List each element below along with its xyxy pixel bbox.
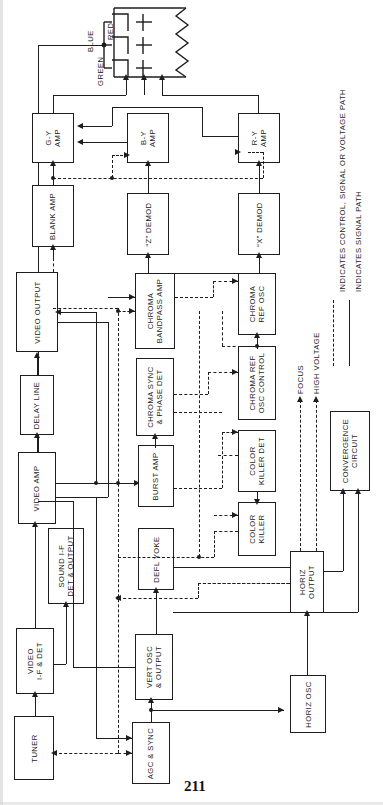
block-horiz-osc-label: HORIZ OSC — [304, 681, 313, 727]
wire-videoamp-into-burst — [128, 483, 138, 484]
dashed-killer-in-b — [214, 531, 238, 532]
wire-videoamp-feed-a-top — [58, 312, 96, 313]
block-by-amp[interactable]: B-Y AMP — [127, 113, 169, 163]
block-convergence-circuit[interactable]: CONVERGENCE CIRCUIT — [330, 411, 370, 491]
block-color-killer-det-line1: COLOR — [248, 446, 257, 475]
block-chroma-sync-line1: CHROMA SYNC — [146, 366, 155, 428]
block-chroma-ref-ctl-line1: CHROMA REF — [248, 355, 257, 410]
wire-by-to-gy-a-v — [112, 107, 113, 126]
block-video-if-det[interactable]: VIDEO I-F & DET — [16, 628, 54, 694]
arrow-zdemod-to-by — [145, 160, 151, 166]
wire-vert-out-right — [173, 612, 304, 613]
block-gy-amp-line2: AMP — [53, 129, 62, 147]
arrow-videoamp-to-delay — [34, 432, 40, 438]
dashed-agc-to-tuner — [54, 753, 118, 754]
arrow-into-blank-amp — [50, 244, 56, 250]
legend-dashed-label: INDICATES CONTROL, SIGNAL OR VOLTAGE PAT… — [338, 89, 347, 292]
dashed-agc-top — [53, 308, 118, 309]
block-video-output-label: VIDEO OUTPUT — [33, 281, 42, 343]
dashed-sync-out-a-v — [208, 372, 209, 394]
block-chroma-bandpass[interactable]: CHROMA BANDPASS AMP — [135, 273, 175, 349]
block-delay-line-label: DELAY LINE — [33, 381, 42, 429]
arrow-xdemod-to-ry — [256, 160, 262, 166]
block-color-killer[interactable]: COLOR KILLER — [238, 502, 276, 556]
wire-by-to-gy-a-top — [112, 107, 202, 108]
arrow-vert-to-conv — [355, 488, 361, 494]
block-tuner[interactable]: TUNER — [14, 716, 54, 780]
block-vert-osc[interactable]: VERT OSC & OUTPUT — [135, 634, 173, 700]
block-video-output[interactable]: VIDEO OUTPUT — [16, 272, 58, 352]
arrow-video-return — [55, 309, 61, 315]
block-horiz-output[interactable]: HORIZ OUTPUT — [290, 551, 324, 613]
block-blank-amp-label: BLANK AMP — [49, 192, 58, 239]
block-gy-amp[interactable]: G-Y AMP — [32, 113, 74, 163]
wire-videoif-to-sound-v — [66, 604, 67, 664]
dashed-killerdet-in2 — [218, 455, 238, 456]
arrow-killer-in-a — [232, 512, 238, 518]
block-chroma-ref-osc-control[interactable]: CHROMA REF OSC CONTROL — [238, 346, 276, 420]
block-burst-amp[interactable]: BURST AMP — [138, 445, 174, 507]
block-vert-osc-line1: VERT OSC — [145, 646, 154, 688]
block-video-if-line2: I-F & DET — [35, 642, 44, 680]
arrow-into-chroma-bp — [129, 294, 135, 300]
arrow-crt-blue — [123, 74, 129, 80]
junction-agc-bus — [116, 481, 120, 485]
block-ry-amp[interactable]: R-Y AMP — [238, 113, 280, 163]
arrow-videoif-to-videoamp — [32, 521, 38, 527]
wire-blue-into-vert — [73, 667, 135, 668]
block-x-demod-label: “X” DEMOD — [255, 202, 264, 247]
wire-videoamp-feed-b-v — [108, 322, 109, 497]
wire-blank-to-gy — [53, 163, 54, 185]
arrow-vert-to-yoke — [153, 587, 159, 593]
block-delay-line[interactable]: DELAY LINE — [20, 375, 54, 435]
block-chroma-sync-line2: & PHASE DET — [155, 369, 164, 424]
dashed-burst-out — [174, 488, 222, 489]
block-burst-amp-label: BURST AMP — [152, 452, 161, 500]
wire-agc-out-right — [151, 710, 284, 711]
dashed-high-voltage — [316, 400, 317, 551]
arrow-refctl-to-refosc — [254, 332, 260, 338]
block-chroma-bp-line1: CHROMA — [146, 293, 155, 329]
arrow-delay-to-videoout — [34, 352, 40, 358]
block-defl-yoke[interactable]: DEFL YOKE — [138, 528, 174, 590]
wire-tuner-to-videoif — [35, 694, 36, 716]
dashed-into-horizout — [198, 583, 290, 584]
block-ry-amp-line2: AMP — [259, 129, 268, 147]
wire-horizosc-to-horizout — [307, 613, 308, 675]
dashed-killer-up — [199, 311, 200, 557]
label-focus: FOCUS — [296, 365, 305, 394]
arrow-tuner-to-videoif — [32, 691, 38, 697]
block-video-amp[interactable]: VIDEO AMP — [18, 452, 56, 524]
arrow-chroma-to-z — [145, 252, 151, 258]
block-horiz-osc[interactable]: HORIZ OSC — [290, 675, 326, 733]
block-horiz-output-line2: OUTPUT — [307, 565, 316, 599]
wire-vert-to-conv-h — [304, 612, 358, 613]
block-by-amp-line1: B-Y — [139, 131, 148, 145]
dashed-sync-out-a — [174, 394, 208, 395]
wire-videoamp-feed-b — [56, 497, 108, 498]
arrow-agc-to-tuner — [51, 750, 57, 756]
block-sound-if[interactable]: SOUND I-F DET & OUTPUT — [48, 528, 84, 604]
wire-into-agc-solid-v — [96, 497, 97, 738]
dashed-blank-bus — [53, 178, 263, 179]
block-agc-sync[interactable]: AGC & SYNC — [132, 722, 170, 784]
wire-horizout-to-yoke — [174, 567, 304, 568]
dashed-chroma-out — [175, 297, 213, 298]
block-chroma-ref-osc-line1: CHROMA — [248, 286, 257, 322]
block-sound-if-line1: SOUND I-F — [57, 545, 66, 588]
block-ry-amp-line1: R-Y — [250, 131, 259, 145]
block-blank-amp[interactable]: BLANK AMP — [32, 185, 74, 247]
block-by-amp-line2: AMP — [148, 129, 157, 147]
block-chroma-ref-osc[interactable]: CHROMA REF OSC — [238, 273, 276, 335]
block-chroma-sync[interactable]: CHROMA SYNC & PHASE DET — [136, 358, 174, 436]
dashed-chroma-out-v — [213, 281, 214, 297]
legend-solid-sample — [349, 300, 350, 366]
wire-blue-to-vert-v — [73, 501, 74, 667]
block-color-killer-det[interactable]: COLOR KILLER DET — [238, 430, 276, 492]
block-z-demod[interactable]: “Z” DEMOD — [127, 193, 169, 255]
block-chroma-ref-ctl-line2: OSC CONTROL — [257, 353, 266, 414]
block-x-demod[interactable]: “X” DEMOD — [238, 193, 280, 255]
arrow-burst-to-chromasync — [152, 433, 158, 439]
arrow-killerdet-to-killer — [254, 499, 260, 505]
wire-videoif-to-sound-h — [54, 664, 66, 665]
